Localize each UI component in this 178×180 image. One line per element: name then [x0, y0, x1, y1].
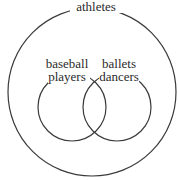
- baseball-players-label: baseball players: [42, 57, 92, 83]
- ballets-label-line2: dancers: [96, 70, 142, 83]
- venn-shapes: [0, 0, 178, 180]
- baseball-label-line2: players: [42, 70, 92, 83]
- outer-circle-athletes: [8, 8, 176, 176]
- venn-diagram: athletes baseball players ballets dancer…: [0, 0, 178, 180]
- athletes-label: athletes: [70, 0, 122, 13]
- ballets-dancers-label: ballets dancers: [96, 57, 142, 83]
- athletes-label-text: athletes: [76, 0, 116, 14]
